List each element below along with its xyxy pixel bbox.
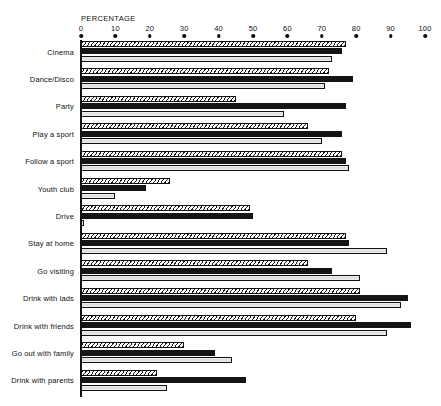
bar-series-2: [81, 158, 346, 164]
bar-group: Drink with lads: [0, 288, 441, 315]
bar-series-1: [81, 288, 360, 294]
bar-series-3: [81, 357, 232, 363]
bar-series-2: [81, 213, 253, 219]
bar-series-2: [81, 185, 146, 191]
x-tick-label-90: 90: [386, 24, 395, 33]
bar-group: Dance/Disco: [0, 68, 441, 95]
bar-group: Go out with family: [0, 342, 441, 369]
category-label-wrap: Follow a sport: [0, 151, 74, 173]
category-label-wrap: Drive: [0, 205, 74, 227]
bar-series-3: [81, 165, 349, 171]
bar-group: Drink with friends: [0, 315, 441, 342]
bar-group: Follow a sport: [0, 151, 441, 178]
category-label: Drink with parents: [11, 376, 74, 385]
category-label-wrap: Cinema: [0, 41, 74, 63]
bar-series-3: [81, 385, 167, 391]
category-label-wrap: Go visiting: [0, 260, 74, 282]
bar-series-2: [81, 322, 411, 328]
x-tick-dot-30: [182, 34, 186, 38]
bar-series-3: [81, 56, 332, 62]
category-label-wrap: Go out with family: [0, 342, 74, 364]
bar-series-3: [81, 330, 387, 336]
bar-series-1: [81, 68, 329, 74]
bar-series-2: [81, 103, 346, 109]
x-tick-label-50: 50: [249, 24, 258, 33]
x-tick-label-40: 40: [214, 24, 223, 33]
bar-group: Cinema: [0, 41, 441, 68]
category-label: Drink with friends: [14, 322, 74, 331]
category-label-wrap: Drink with parents: [0, 370, 74, 392]
bar-series-3: [81, 83, 325, 89]
category-label: Play a sport: [33, 130, 74, 139]
x-tick-label-0: 0: [79, 24, 83, 33]
bar-series-1: [81, 96, 236, 102]
x-axis-title: PERCENTAGE: [81, 14, 136, 23]
bar-series-1: [81, 123, 308, 129]
category-label: Dance/Disco: [30, 75, 74, 84]
category-label: Drive: [56, 212, 74, 221]
bar-series-1: [81, 233, 346, 239]
bar-group: Drink with parents: [0, 370, 441, 397]
bar-series-1: [81, 260, 308, 266]
bar-series-1: [81, 205, 250, 211]
bar-series-1: [81, 370, 157, 376]
category-label-wrap: Drink with lads: [0, 288, 74, 310]
category-label: Go out with family: [12, 349, 74, 358]
bar-series-2: [81, 377, 246, 383]
x-tick-dot-90: [389, 34, 393, 38]
bar-series-3: [81, 248, 387, 254]
category-label-wrap: Play a sport: [0, 123, 74, 145]
category-label: Youth club: [38, 185, 74, 194]
x-tick-dot-50: [251, 34, 255, 38]
bar-series-2: [81, 76, 353, 82]
bar-series-3: [81, 220, 84, 226]
bar-series-3: [81, 275, 360, 281]
x-tick-dot-20: [148, 34, 152, 38]
x-tick-label-20: 20: [145, 24, 154, 33]
bar-series-1: [81, 41, 346, 47]
bar-series-3: [81, 193, 115, 199]
category-label-wrap: Stay at home: [0, 233, 74, 255]
bar-series-2: [81, 268, 332, 274]
bar-chart: PERCENTAGE 0102030405060708090100 Cinema…: [0, 0, 441, 406]
category-label-wrap: Youth club: [0, 178, 74, 200]
bar-series-1: [81, 342, 184, 348]
bar-series-2: [81, 295, 408, 301]
x-tick-dot-10: [114, 34, 118, 38]
bar-series-1: [81, 315, 356, 321]
x-tick-dot-80: [354, 34, 358, 38]
bar-series-3: [81, 302, 401, 308]
bar-series-1: [81, 178, 170, 184]
category-label: Follow a sport: [25, 157, 74, 166]
category-label: Stay at home: [28, 239, 74, 248]
bar-series-1: [81, 151, 342, 157]
bar-series-2: [81, 131, 342, 137]
x-tick-label-80: 80: [352, 24, 361, 33]
x-tick-label-60: 60: [283, 24, 292, 33]
category-label: Party: [56, 102, 74, 111]
category-label: Go visiting: [37, 267, 74, 276]
x-tick-dot-70: [320, 34, 324, 38]
bar-group: Play a sport: [0, 123, 441, 150]
category-label: Drink with lads: [23, 294, 74, 303]
bar-group: Drive: [0, 205, 441, 232]
x-tick-dot-60: [286, 34, 290, 38]
category-label: Cinema: [47, 48, 74, 57]
x-tick-label-100: 100: [418, 24, 431, 33]
x-tick-label-70: 70: [317, 24, 326, 33]
x-tick-dot-100: [423, 34, 427, 38]
category-label-wrap: Drink with friends: [0, 315, 74, 337]
category-label-wrap: Dance/Disco: [0, 68, 74, 90]
x-tick-label-30: 30: [180, 24, 189, 33]
x-tick-dot-40: [217, 34, 221, 38]
bar-group: Go visiting: [0, 260, 441, 287]
category-label-wrap: Party: [0, 96, 74, 118]
bar-series-2: [81, 48, 342, 54]
bar-group: Youth club: [0, 178, 441, 205]
bar-group: Party: [0, 96, 441, 123]
bar-group: Stay at home: [0, 233, 441, 260]
bar-series-3: [81, 111, 284, 117]
bar-series-2: [81, 350, 215, 356]
x-tick-dot-0: [79, 34, 83, 38]
x-tick-label-10: 10: [111, 24, 120, 33]
